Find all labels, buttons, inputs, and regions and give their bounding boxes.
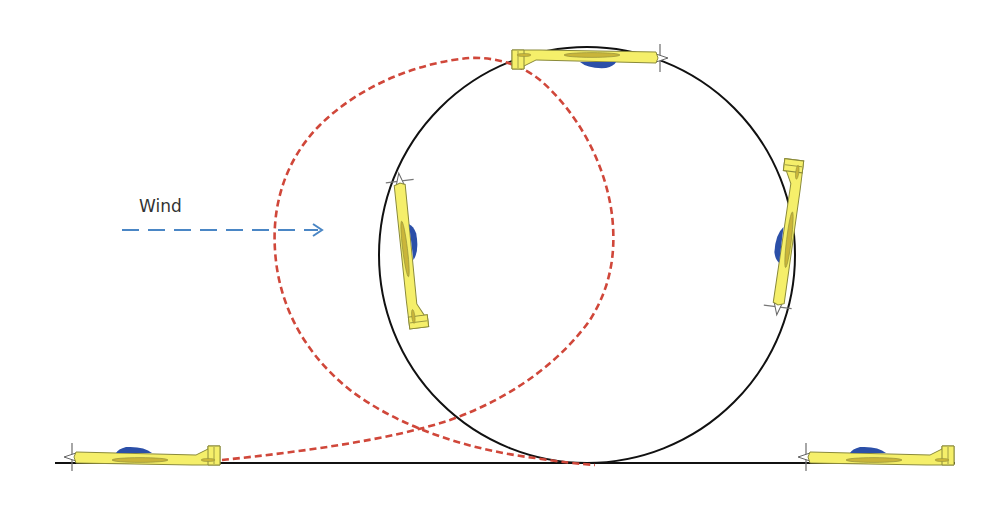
wind-label: Wind <box>139 196 182 216</box>
plane-left-side <box>385 171 432 331</box>
plane-right-side <box>763 156 810 316</box>
ideal-loop-circle <box>379 47 795 463</box>
plane-top-inverted <box>510 44 668 72</box>
loop-in-wind-diagram <box>0 0 1003 510</box>
wind-arrow <box>122 224 322 236</box>
plane-entry-bottom-left <box>64 443 222 471</box>
wind-drift-path <box>222 58 613 465</box>
plane-exit-bottom-right <box>798 443 956 471</box>
